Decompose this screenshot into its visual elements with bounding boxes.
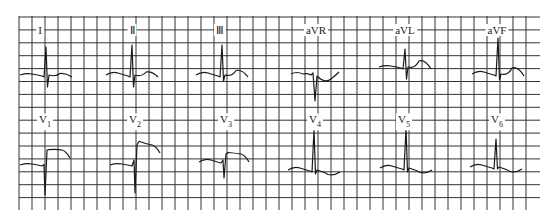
ecg-grid	[19, 16, 540, 210]
ecg-trace-v5	[380, 128, 432, 173]
lead-subscript: 3	[228, 120, 232, 129]
lead-subscript: 6	[499, 120, 503, 129]
lead-name: Ⅲ	[216, 24, 224, 36]
lead-label-v6: V6	[489, 113, 505, 130]
ecg-trace-v4	[288, 130, 340, 175]
lead-subscript: 5	[406, 120, 410, 129]
lead-name: aVR	[306, 24, 326, 36]
lead-label-avl: aVL	[393, 24, 417, 36]
lead-label-ii: Ⅱ	[128, 24, 137, 36]
lead-name: V	[491, 113, 499, 125]
lead-label-i: I	[36, 24, 44, 36]
lead-label-v2: V2	[127, 113, 143, 130]
lead-name: V	[309, 113, 317, 125]
lead-name: aVF	[488, 24, 507, 36]
ecg-trace-v2	[110, 141, 160, 193]
lead-name: Ⅱ	[130, 24, 135, 36]
lead-label-avf: aVF	[486, 24, 509, 36]
lead-name: I	[38, 24, 42, 36]
ecg-trace-ii	[106, 45, 158, 87]
lead-name: V	[129, 113, 137, 125]
lead-name: aVL	[395, 24, 415, 36]
lead-label-v3: V3	[218, 113, 234, 130]
lead-label-v4: V4	[307, 113, 323, 130]
lead-name: V	[220, 113, 228, 125]
lead-label-v5: V5	[396, 113, 412, 130]
lead-label-iii: Ⅲ	[214, 24, 226, 36]
ecg-trace-avf	[472, 38, 524, 80]
lead-subscript: 1	[47, 120, 51, 129]
lead-label-avr: aVR	[304, 24, 328, 36]
lead-subscript: 2	[137, 120, 141, 129]
lead-label-v1: V1	[37, 113, 53, 130]
ecg-trace-avl	[379, 49, 431, 79]
ecg-trace-avr	[291, 72, 339, 101]
lead-name: V	[39, 113, 47, 125]
lead-name: V	[398, 113, 406, 125]
lead-subscript: 4	[317, 120, 321, 129]
ecg-trace-v3	[199, 153, 249, 179]
ecg-trace-v6	[470, 139, 522, 172]
ecg-figure	[0, 0, 545, 222]
